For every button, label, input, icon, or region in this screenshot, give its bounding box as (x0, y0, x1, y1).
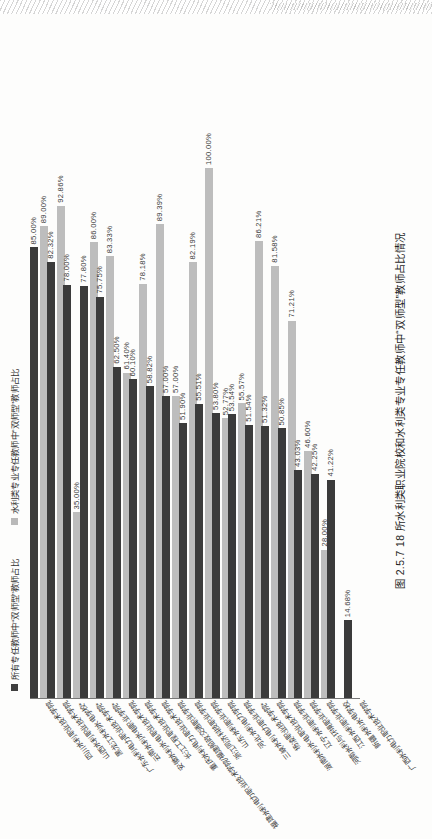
bar-value-label-dark: 57.00% (161, 365, 170, 393)
bar-all-teachers (311, 474, 319, 698)
bar-value-label-dark: 51.90% (178, 392, 187, 420)
plot-area: 85.00%89.00%82.32%92.86%78.00%35.00%77.8… (30, 139, 360, 699)
bar-value-label-dark: 53.54% (227, 384, 236, 412)
bar-all-teachers (113, 367, 121, 698)
bar-all-teachers (212, 413, 220, 698)
bar-all-teachers (96, 297, 104, 698)
bar-value-label-dark: 50.85% (277, 398, 286, 426)
bar-all-teachers (30, 248, 38, 699)
bar-value-label-dark: 58.82% (145, 356, 154, 384)
legend-swatch-light (11, 518, 18, 525)
bar-value-label-dark: 51.54% (244, 394, 253, 422)
bar-all-teachers (228, 414, 236, 698)
bar-value-label-dark: 55.51% (194, 373, 203, 401)
bar-all-teachers (327, 480, 335, 698)
bar-group: 14.68% (344, 169, 366, 699)
bar-value-label-dark: 82.32% (46, 231, 55, 259)
bar-chart-figure: 所有专任教师中“双师型”教师占比 水利类专业专任教师中“双师型”教师占比 85.… (0, 0, 432, 839)
bar-all-teachers (63, 285, 71, 698)
legend-label-water-majors: 水利类专业专任教师中“双师型”教师占比 (8, 369, 20, 514)
bar-value-label-light: 100.00% (204, 133, 213, 165)
bar-value-label-dark: 41.22% (326, 449, 335, 477)
bar-all-teachers (80, 286, 88, 698)
bar-value-label-dark: 53.80% (211, 382, 220, 410)
bar-all-teachers (179, 423, 187, 698)
bar-value-label-dark: 77.80% (79, 255, 88, 283)
bar-value-label-dark: 14.68% (343, 590, 352, 618)
legend-swatch-dark (11, 684, 18, 691)
figure-caption: 图 2.5.7 18 所水利类职业院校和水利类专业专任教师中“双师型”教师占比情… (392, 232, 407, 589)
legend-item-all-teachers: 所有专任教师中“双师型”教师占比 (8, 559, 20, 691)
bar-all-teachers (278, 429, 286, 699)
bar-all-teachers (245, 425, 253, 698)
bar-all-teachers (162, 396, 170, 698)
chart-legend: 所有专任教师中“双师型”教师占比 水利类专业专任教师中“双师型”教师占比 (8, 369, 20, 691)
bar-value-label-dark: 42.25% (310, 444, 319, 472)
bar-value-label-dark: 43.03% (293, 439, 302, 467)
bar-value-label-dark: 75.75% (95, 266, 104, 294)
bar-all-teachers (261, 426, 269, 698)
bar-value-label-dark: 60.10% (128, 349, 137, 377)
bar-value-label-dark: 51.32% (260, 395, 269, 423)
bar-all-teachers (47, 262, 55, 698)
bar-all-teachers (146, 386, 154, 698)
bar-value-label-dark: 78.00% (62, 254, 71, 282)
rotated-figure-wrapper: 所有专任教师中“双师型”教师占比 水利类专业专任教师中“双师型”教师占比 85.… (0, 0, 432, 839)
bar-all-teachers (129, 379, 137, 698)
bar-value-label-dark: 62.50% (112, 336, 121, 364)
bar-all-teachers (344, 620, 352, 698)
legend-item-water-majors: 水利类专业专任教师中“双师型”教师占比 (8, 369, 20, 525)
bar-all-teachers (294, 470, 302, 698)
bar-value-label-dark: 85.00% (29, 217, 38, 245)
legend-label-all-teachers: 所有专任教师中“双师型”教师占比 (8, 559, 20, 680)
bar-all-teachers (195, 404, 203, 698)
